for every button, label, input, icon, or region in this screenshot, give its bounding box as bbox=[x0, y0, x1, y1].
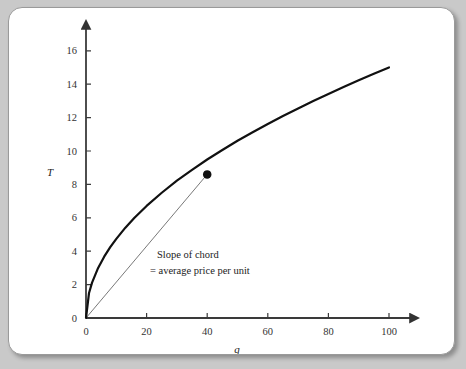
chord-line bbox=[86, 174, 207, 318]
x-tick-label: 80 bbox=[323, 326, 334, 337]
total-outlay-curve bbox=[86, 68, 389, 319]
y-axis-title: T bbox=[47, 166, 54, 178]
y-tick-label: 12 bbox=[67, 112, 78, 123]
y-tick-label: 8 bbox=[72, 179, 77, 190]
x-tick-label: 20 bbox=[141, 326, 152, 337]
y-tick-label: 14 bbox=[67, 79, 78, 90]
x-axis-title: q bbox=[234, 343, 240, 355]
y-tick-label: 16 bbox=[67, 45, 78, 56]
x-tick-label: 100 bbox=[381, 326, 397, 337]
y-tick-label: 10 bbox=[67, 146, 78, 157]
x-tick-label: 40 bbox=[202, 326, 213, 337]
y-axis-tick-labels: 0 2 4 6 8 10 12 14 16 bbox=[67, 45, 78, 323]
y-tick-label: 0 bbox=[72, 313, 77, 324]
annotation-line-2: = average price per unit bbox=[150, 265, 250, 276]
x-tick-label: 60 bbox=[263, 326, 274, 337]
y-tick-label: 4 bbox=[72, 246, 78, 257]
x-axis-tick-labels: 0 20 40 60 80 100 bbox=[83, 326, 397, 337]
chord-endpoint-marker bbox=[203, 170, 212, 179]
annotation-line-1: Slope of chord bbox=[157, 249, 220, 260]
y-tick-label: 6 bbox=[72, 212, 77, 223]
slope-of-chord-annotation: Slope of chord = average price per unit bbox=[150, 249, 250, 276]
chart-canvas: 0 2 4 6 8 10 12 14 16 0 20 40 60 80 100 bbox=[9, 8, 455, 355]
figure-card: 0 2 4 6 8 10 12 14 16 0 20 40 60 80 100 bbox=[8, 7, 455, 355]
x-tick-label: 0 bbox=[83, 326, 88, 337]
y-tick-label: 2 bbox=[72, 279, 77, 290]
